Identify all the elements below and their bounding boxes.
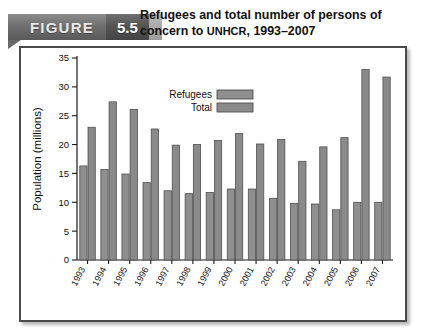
- x-tick-label-2005: 2005: [322, 265, 340, 287]
- figure-title-organization: UNHCR: [207, 25, 247, 37]
- bar-total-2005: [341, 138, 348, 260]
- bar-refugees-1993: [80, 166, 87, 260]
- x-tick-label-1997: 1997: [153, 265, 171, 287]
- x-tick-label-1993: 1993: [69, 265, 87, 287]
- figure-title: Refugees and total number of persons of …: [140, 8, 415, 40]
- x-tick-label-1998: 1998: [174, 265, 192, 287]
- bar-total-1995: [130, 109, 137, 260]
- x-tick-label-2006: 2006: [343, 265, 361, 287]
- bar-refugees-2000: [227, 189, 234, 260]
- chart-frame: 05101520253035 1993199419951996199719981…: [19, 46, 407, 322]
- figure-title-line2-post: , 1993–2007: [247, 24, 316, 38]
- bar-refugees-1995: [122, 174, 129, 260]
- x-tick-label-1999: 1999: [195, 265, 213, 287]
- bar-refugees-2003: [290, 203, 297, 260]
- bar-chart-svg: 05101520253035 1993199419951996199719981…: [21, 48, 405, 320]
- legend-label-refugees: Refugees: [169, 89, 212, 100]
- chart-plot-area: 05101520253035 1993199419951996199719981…: [21, 48, 405, 320]
- bar-refugees-2005: [333, 210, 340, 260]
- chart-legend: RefugeesTotal: [169, 89, 253, 113]
- bar-total-1996: [151, 129, 158, 260]
- x-tick-label-2000: 2000: [217, 265, 235, 287]
- figure-header: FIGURE 5.5 Refugees and total number of …: [0, 8, 425, 46]
- y-axis-title: Population (millions): [31, 107, 43, 211]
- bar-refugees-2007: [375, 202, 382, 260]
- bar-refugees-1994: [101, 169, 108, 260]
- bar-total-2006: [362, 70, 369, 260]
- bar-refugees-1999: [206, 192, 213, 260]
- figure-title-line1: Refugees and total number of persons of: [140, 8, 382, 22]
- y-tick-label: 35: [58, 52, 69, 63]
- bar-refugees-1997: [164, 191, 171, 260]
- figure-banner-label: FIGURE: [8, 14, 106, 40]
- x-tick-label-1996: 1996: [132, 265, 150, 287]
- bar-total-2003: [299, 161, 306, 260]
- bar-total-2004: [320, 147, 327, 260]
- legend-label-total: Total: [191, 102, 212, 113]
- y-tick-label: 5: [64, 226, 69, 237]
- y-tick-label: 20: [58, 139, 69, 150]
- x-tick-label-2002: 2002: [259, 265, 277, 287]
- bar-total-2007: [383, 77, 390, 260]
- y-tick-label: 10: [58, 197, 69, 208]
- bar-refugees-2002: [269, 198, 276, 260]
- bar-total-1997: [172, 145, 179, 260]
- x-axis: 1993199419951996199719981999200020012002…: [69, 260, 393, 288]
- y-tick-label: 25: [58, 110, 69, 121]
- figure-banner: FIGURE 5.5: [8, 14, 162, 40]
- bar-total-1994: [109, 102, 116, 260]
- bar-refugees-2006: [354, 202, 361, 260]
- bar-refugees-1998: [185, 194, 192, 260]
- x-tick-label-1994: 1994: [90, 265, 108, 287]
- y-axis: 05101520253035: [58, 52, 77, 265]
- y-tick-label: 0: [64, 254, 69, 265]
- bar-total-2000: [235, 134, 242, 260]
- x-tick-label-2004: 2004: [301, 265, 319, 287]
- x-tick-label-1995: 1995: [111, 265, 129, 287]
- figure-title-line2-pre: concern to: [140, 24, 207, 38]
- bar-total-1998: [193, 145, 200, 260]
- bar-total-2002: [278, 139, 285, 260]
- bar-total-2001: [257, 144, 264, 260]
- bar-refugees-2004: [312, 204, 319, 260]
- x-tick-label-2001: 2001: [238, 265, 256, 287]
- y-tick-label: 30: [58, 81, 69, 92]
- legend-swatch-total: [217, 103, 253, 112]
- bar-total-1999: [214, 141, 221, 260]
- bar-total-1993: [88, 127, 95, 260]
- bar-refugees-1996: [143, 183, 150, 260]
- x-tick-label-2007: 2007: [364, 265, 382, 287]
- legend-swatch-refugees: [217, 90, 253, 99]
- y-tick-label: 15: [58, 168, 69, 179]
- x-tick-label-2003: 2003: [280, 265, 298, 287]
- bar-refugees-2001: [248, 189, 255, 260]
